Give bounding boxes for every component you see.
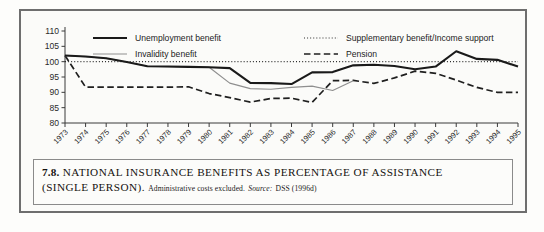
figure-caption-box: 7.8. NATIONAL INSURANCE BENEFITS AS PERC… [33,159,513,205]
x-tick-label: 1994 [484,128,502,146]
x-tick-label: 1992 [443,128,461,146]
x-tick-label: 1980 [196,128,214,146]
caption-source-value: DSS (1996d) [276,184,317,193]
caption-source-label: Source: [248,184,272,193]
legend-label-1: Supplementary benefit/Income support [346,33,494,43]
x-tick-label: 1995 [505,128,523,146]
caption-number: 7.8. [42,166,60,178]
y-tick-label: 110 [45,26,59,36]
x-tick-label: 1987 [340,128,358,146]
x-tick-label: 1984 [278,128,296,146]
x-tick-label: 1973 [52,128,70,146]
x-tick-label: 1985 [299,128,317,146]
line-chart: 8085909510010511019731974197519761977197… [21,11,525,156]
y-tick-label: 100 [45,57,60,67]
y-tick-label: 90 [49,87,59,97]
figure-root: 8085909510010511019731974197519761977197… [0,0,544,232]
x-tick-label: 1983 [258,128,276,146]
y-tick-label: 95 [49,72,59,82]
series-line-unemployment [65,51,518,84]
x-tick-label: 1979 [175,128,193,146]
legend-label-2: Invalidity benefit [135,49,197,59]
x-tick-label: 1982 [237,128,255,146]
x-tick-label: 1977 [134,128,152,146]
caption-note: Administrative costs excluded. [148,184,245,193]
x-tick-label: 1978 [155,128,173,146]
x-tick-label: 1988 [360,128,378,146]
y-tick-label: 85 [49,103,59,113]
legend-label-0: Unemployment benefit [135,33,222,43]
y-tick-label: 105 [45,41,60,51]
caption-line-2: (SINGLE PERSON). Administrative costs ex… [42,180,504,196]
x-tick-label: 1991 [422,128,440,146]
x-tick-label: 1976 [113,128,131,146]
legend-label-3: Pension [346,49,377,59]
y-tick-label: 80 [49,118,59,128]
caption-main-line2: (SINGLE PERSON). [42,181,145,193]
x-tick-label: 1981 [216,128,234,146]
chart-panel: 8085909510010511019731974197519761977197… [21,11,525,156]
x-tick-label: 1975 [93,128,111,146]
x-tick-label: 1974 [72,128,90,146]
x-tick-label: 1990 [402,128,420,146]
x-tick-label: 1993 [463,128,481,146]
x-tick-label: 1986 [319,128,337,146]
x-tick-label: 1989 [381,128,399,146]
figure-outer-frame: 8085909510010511019731974197519761977197… [19,9,527,213]
caption-line-1: 7.8. NATIONAL INSURANCE BENEFITS AS PERC… [42,165,504,180]
caption-main-line1: NATIONAL INSURANCE BENEFITS AS PERCENTAG… [63,166,443,178]
